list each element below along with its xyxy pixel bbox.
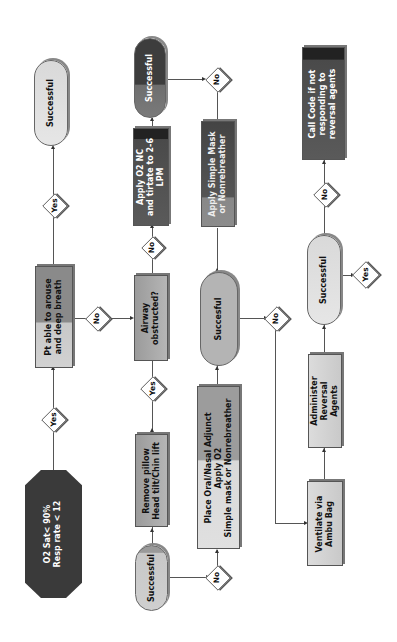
connector-success4-to-no (238, 318, 266, 319)
connector-success3-to-no (168, 577, 208, 578)
start-condition-octagon: O2 Sat< 90%Resp rate < 12 (25, 470, 82, 598)
successful-terminal-4: Succesful (200, 272, 238, 366)
administer-reversal-box: AdministerReversalAgents (308, 354, 342, 448)
decision-no-4: No (206, 566, 228, 588)
airway-obstructed-decision-box: Airwayobstructed? (134, 275, 168, 361)
decision-no-6: No (314, 183, 336, 205)
apply-simple-mask-box: Apply Simple Maskor Nonrebreather (201, 121, 235, 227)
successful-label: Successful (46, 79, 56, 127)
arrow-head (150, 528, 154, 532)
connector-no-to-mask (217, 90, 218, 120)
decision-no-5: No (265, 307, 287, 329)
successful-terminal-3: Successful (135, 545, 168, 611)
decision-no-2: No (142, 237, 162, 257)
arrow-head (215, 549, 219, 553)
decision-no-3: No (206, 68, 228, 90)
arrow-head (322, 448, 326, 452)
successful-terminal-2: Successful (134, 38, 166, 118)
ventilate-ambu-box: Ventilate viaAmbu Bag (307, 481, 343, 566)
connector-success2-to-no (166, 79, 204, 80)
arrow-head (150, 428, 154, 432)
arrow-head (322, 160, 326, 164)
decision-no-1: No (86, 307, 108, 329)
place-adjunct-box: Place Oral/Nasal AdjunctApply O2Simple m… (197, 386, 240, 549)
arouse-process-box: Pt able to arouseand deep breath (35, 266, 73, 368)
successful-terminal-5: Successful (307, 235, 341, 325)
connector-no-to-ventilate-v (275, 328, 276, 524)
call-code-box: Call Code if notresponding toreversal ag… (302, 47, 345, 160)
remove-pillow-box: Remove pillowHead tilt/Chin lift (135, 434, 168, 527)
arrow-head (322, 325, 326, 329)
apply-o2-nc-box: Apply O2 NCand tirtate to 2-6LPM (133, 128, 169, 226)
successful-terminal-1: Successful (34, 60, 68, 146)
decision-yes-4: Yes (353, 262, 377, 286)
decision-yes-3: Yes (141, 377, 163, 399)
decision-yes-2: Yes (42, 408, 64, 430)
connector-no-to-ventilate-h (275, 523, 306, 524)
decision-yes-1: Yes (43, 194, 65, 216)
arrow-head (215, 366, 219, 370)
